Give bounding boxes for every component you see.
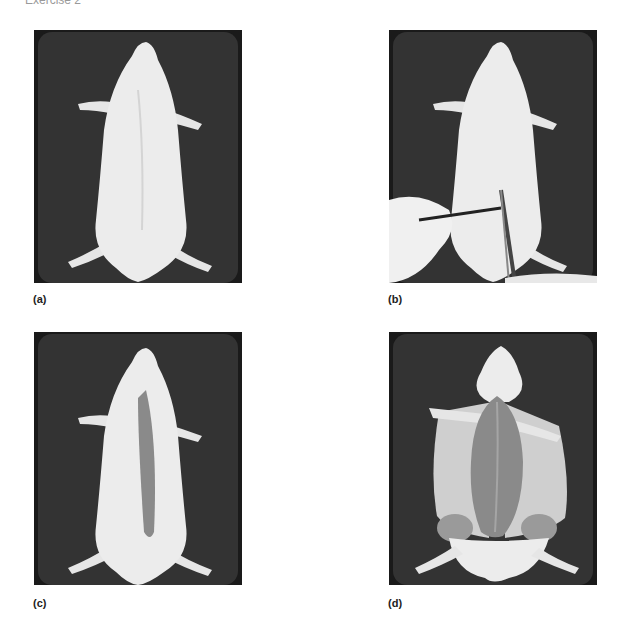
panel-label-c: (c) [33,597,46,609]
rat-midline-cut-photo [34,332,242,585]
figure-panel-b [389,30,597,283]
panel-label-b: (b) [388,293,402,305]
figure-panel-d [389,332,597,585]
figure-panel-a [34,30,242,283]
panel-label-a: (a) [33,293,46,305]
page-header: Exercise 2 [25,0,81,7]
rat-skin-reflected-photo [389,332,597,585]
rat-incision-photo [389,30,597,283]
panel-label-d: (d) [388,597,402,609]
figure-panel-c [34,332,242,585]
rat-intact-photo [34,30,242,283]
